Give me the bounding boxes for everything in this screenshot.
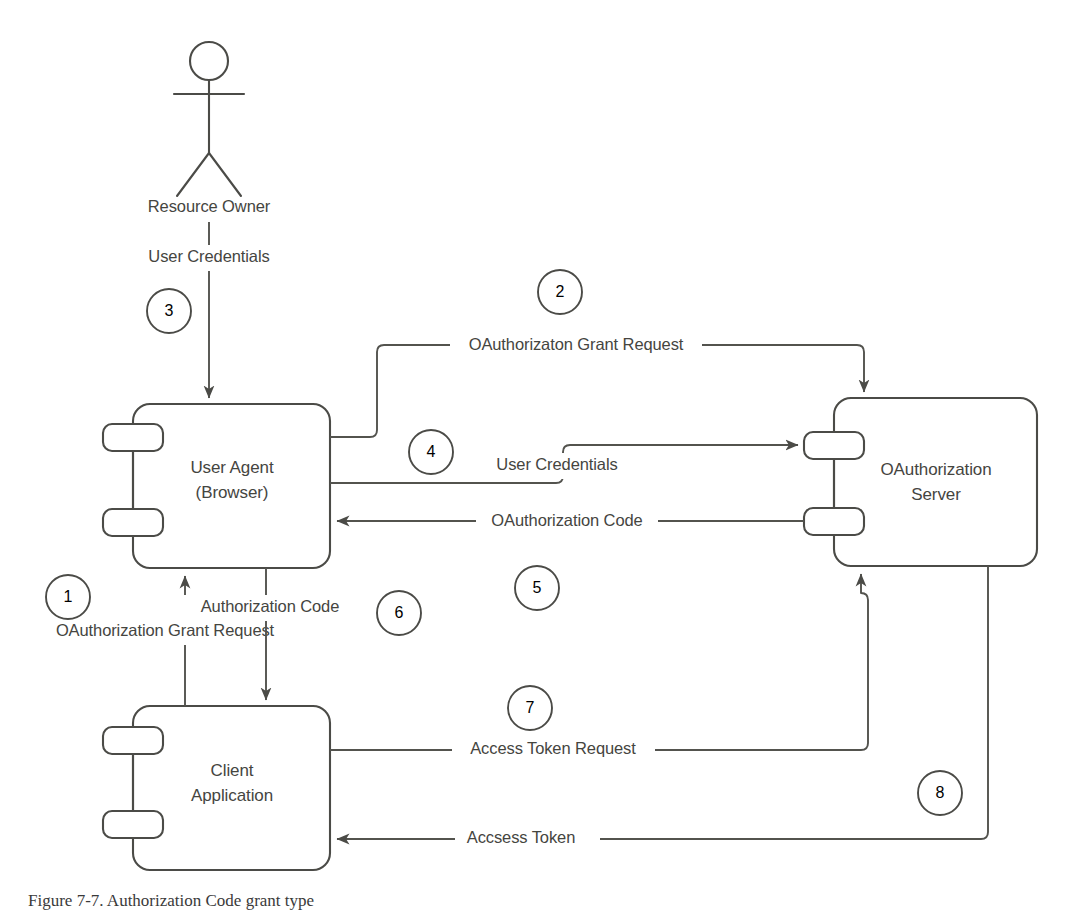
step-marker-2-label: 2 [556,283,565,300]
actor-legs-icon [177,153,241,196]
client-application-port-2-icon [103,811,163,838]
actor-resource-owner: Resource Owner [148,42,271,215]
actor-label-resource-owner: Resource Owner [148,197,271,215]
client-application-port-1-icon [103,727,163,754]
flow-8-label: Accsess Token [467,828,575,846]
component-client-application-label-line2: Application [191,786,273,805]
flow-1-oauthorization-grant-request: OAuthorization Grant Request 1 [24,575,305,706]
oauth-server-port-2-icon [804,508,864,535]
step-marker-4-label: 4 [427,443,436,460]
step-marker-6-label: 6 [395,604,404,621]
flow-5-label: OAuthorization Code [491,511,642,529]
flow-1-label: OAuthorization Grant Request [56,621,275,639]
component-oauth-server[interactable]: OAuthorization Server [804,398,1037,566]
flow-4-user-credentials: User Credentials 4 [330,430,798,483]
actor-head-icon [190,42,228,80]
flow-3-label: User Credentials [148,247,269,265]
component-oauth-server-box[interactable] [834,398,1037,566]
flow-8-access-token: Accsess Token 8 [337,566,988,852]
flow-2-oauthorization-grant-request: OAuthorizaton Grant Request 2 [330,270,864,437]
oauth-authorization-code-diagram: Resource Owner User Credentials 3 User A… [0,0,1090,914]
component-oauth-server-label-line2: Server [911,485,961,504]
flow-2-line [330,345,864,437]
component-user-agent[interactable]: User Agent (Browser) [103,404,330,568]
flow-8-line [337,566,988,839]
step-marker-7-label: 7 [526,699,535,716]
component-oauth-server-label-line1: OAuthorization [880,460,991,479]
flow-7-label: Access Token Request [470,739,636,757]
step-marker-5-label: 5 [533,579,542,596]
flow-6-label: Authorization Code [201,597,340,615]
flow-3-user-credentials: User Credentials 3 [140,222,280,398]
flow-2-label: OAuthorizaton Grant Request [469,335,684,353]
user-agent-port-2-icon [103,509,163,536]
step-marker-1-label: 1 [64,588,73,605]
figure-caption: Figure 7-7. Authorization Code grant typ… [28,891,314,910]
step-marker-8-label: 8 [936,784,945,801]
flow-4-label: User Credentials [496,455,617,473]
component-user-agent-label-line1: User Agent [190,458,273,477]
user-agent-port-1-icon [103,424,163,451]
component-client-application-label-line1: Client [211,761,254,780]
component-user-agent-label-line2: (Browser) [196,483,269,502]
component-client-application[interactable]: Client Application [103,706,330,870]
oauth-server-port-1-icon [804,432,864,459]
step-marker-3-label: 3 [165,302,174,319]
